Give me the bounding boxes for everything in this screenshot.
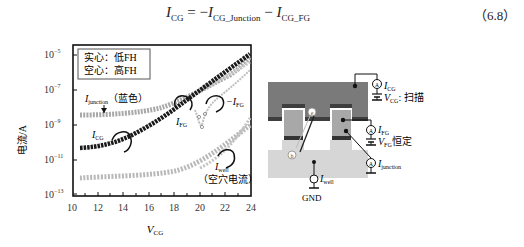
label-diag-vfg: VFG恒定 — [378, 135, 412, 148]
svg-text:10−11: 10−11 — [44, 153, 63, 165]
x-tick-labels: 10 12 14 16 18 20 22 24 — [67, 202, 256, 213]
junction-pointer — [101, 105, 107, 113]
label-i-junction: Ijunction（蓝色） — [84, 92, 148, 105]
label-i-fg: IFG — [175, 116, 188, 128]
figure-canvas: 电流/A 10−5 10−7 10−9 10−11 10−13 10 12 14… — [0, 0, 524, 247]
label-diag-vcg: VCG: 扫描 — [384, 91, 424, 104]
svg-text:12: 12 — [93, 202, 103, 213]
ammeter-junction: A — [369, 161, 373, 167]
legend-hollow: 空心：高FH — [84, 64, 137, 76]
ammeter-fg: A — [369, 128, 373, 134]
annotation-arcs — [112, 96, 235, 168]
hole-marker: h — [291, 153, 294, 159]
label-gnd: GND — [302, 193, 322, 203]
label-neg-i-fg: −IFG — [226, 96, 244, 108]
label-diag-ifg: IFG — [377, 124, 390, 136]
device-diagram: e h A A A — [268, 74, 424, 203]
svg-text:10−7: 10−7 — [44, 83, 60, 95]
x-axis-label: VCG — [147, 223, 163, 237]
y-tick-labels: 10−5 10−7 10−9 10−11 10−13 — [44, 48, 63, 200]
svg-text:20: 20 — [195, 202, 205, 213]
label-i-well: Iwell — [214, 161, 229, 173]
label-diag-ijunction: Ijunction — [377, 158, 401, 170]
ammeter-cg: A — [375, 82, 379, 88]
legend-solid: 实心：低FH — [84, 51, 137, 63]
label-diag-icg: ICG — [383, 80, 396, 92]
svg-text:16: 16 — [144, 202, 154, 213]
svg-text:10−9: 10−9 — [44, 118, 60, 130]
svg-text:10: 10 — [67, 202, 77, 213]
svg-text:22: 22 — [220, 202, 230, 213]
y-axis-label: 电流/A — [16, 124, 28, 155]
svg-text:24: 24 — [246, 202, 256, 213]
svg-text:18: 18 — [169, 202, 179, 213]
label-hole-current: （空穴电流） — [198, 173, 258, 185]
svg-text:14: 14 — [118, 202, 128, 213]
legend: 实心：低FH 空心：高FH — [78, 49, 150, 79]
svg-text:10−13: 10−13 — [44, 188, 63, 200]
svg-text:10−5: 10−5 — [44, 48, 60, 60]
label-i-cg: ICG — [91, 129, 104, 141]
electron-marker: e — [311, 110, 314, 116]
